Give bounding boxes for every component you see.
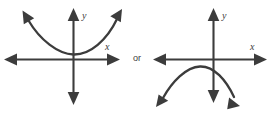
y-axis-top-arrow-icon [208,8,220,21]
upward-parabola-graph: y x [0,0,125,116]
x-axis-label: x [249,41,255,52]
or-connector-label: or [128,52,146,64]
y-axis-bottom-arrow-icon [68,92,80,105]
y-axis-bottom-arrow-icon [208,90,220,103]
y-axis-top-arrow-icon [68,8,80,21]
curve-right-arrow-icon [227,98,240,110]
y-axis-label: y [221,10,227,21]
curve-left-arrow-icon [156,94,168,107]
x-axis-right-arrow-icon [254,54,267,66]
left-graph-canvas: y x [0,0,125,116]
right-graph-canvas: y x [146,0,271,116]
x-axis-left-arrow-icon [153,54,166,66]
parabola-comparison-figure: y x or y x [0,0,271,116]
x-axis-right-arrow-icon [107,54,120,66]
y-axis-label: y [81,10,87,21]
x-axis-label: x [104,41,110,52]
parabola-opening-down-curve [163,66,234,98]
x-axis-left-arrow-icon [4,54,17,66]
downward-parabola-graph: y x [146,0,271,116]
